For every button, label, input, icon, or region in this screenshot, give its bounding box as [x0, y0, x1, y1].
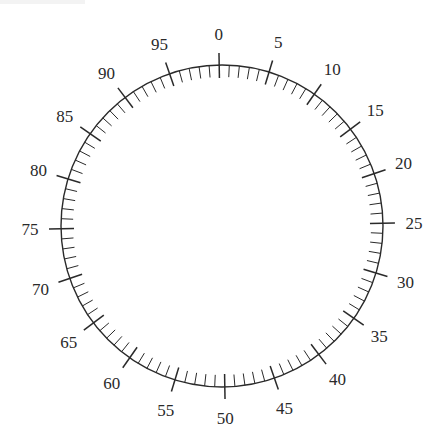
- minor-tick: [205, 374, 206, 386]
- major-tick: [84, 315, 104, 330]
- minor-tick: [329, 114, 338, 122]
- minor-tick: [78, 292, 89, 297]
- minor-tick: [117, 104, 125, 113]
- minor-tick: [283, 79, 288, 90]
- minor-tick: [346, 137, 356, 144]
- minor-tick: [322, 107, 330, 116]
- minor-tick: [107, 330, 116, 338]
- minor-tick: [369, 203, 381, 205]
- major-tick: [123, 347, 137, 367]
- minor-tick: [349, 304, 359, 310]
- scale-label: 65: [60, 333, 77, 352]
- scale-label: 60: [103, 374, 120, 393]
- minor-tick: [367, 261, 379, 264]
- minor-tick: [179, 71, 182, 83]
- minor-tick: [63, 199, 75, 201]
- minor-tick: [291, 84, 297, 95]
- minor-tick: [185, 371, 188, 383]
- minor-tick: [368, 193, 380, 195]
- minor-tick: [369, 251, 381, 253]
- scale-labels: 05101520253035404550556065707580859095: [22, 25, 423, 428]
- minor-tick: [238, 66, 239, 78]
- minor-tick: [85, 142, 95, 148]
- scale-label: 75: [22, 220, 39, 239]
- minor-tick: [371, 213, 383, 214]
- minor-tick: [243, 373, 245, 385]
- minor-tick: [257, 69, 260, 81]
- scale-label: 55: [157, 401, 174, 420]
- minor-tick: [319, 339, 327, 348]
- minor-tick: [332, 326, 341, 334]
- scale-label: 85: [56, 107, 73, 126]
- minor-tick: [252, 372, 254, 384]
- scale-label: 20: [395, 154, 412, 173]
- scale-label: 25: [405, 214, 422, 233]
- minor-tick: [274, 75, 278, 86]
- minor-tick: [279, 364, 284, 375]
- scale-label: 0: [214, 25, 223, 44]
- minor-tick: [88, 308, 98, 315]
- minor-tick: [358, 287, 369, 292]
- minor-tick: [142, 86, 148, 96]
- minor-tick: [195, 373, 197, 385]
- minor-tick: [300, 89, 306, 99]
- minor-tick: [122, 342, 129, 351]
- minor-tick: [315, 100, 322, 109]
- minor-tick: [147, 358, 153, 369]
- minor-tick: [288, 360, 293, 371]
- minor-tick: [366, 183, 378, 186]
- minor-tick: [326, 333, 334, 342]
- minor-tick: [371, 233, 383, 234]
- scale-label: 30: [397, 273, 414, 292]
- minor-tick: [103, 118, 112, 126]
- scale-label: 5: [274, 33, 283, 52]
- scale-label: 35: [371, 327, 388, 346]
- minor-tick: [110, 111, 118, 120]
- minor-tick: [61, 219, 73, 220]
- minor-tick: [209, 66, 210, 78]
- minor-tick: [360, 164, 371, 169]
- major-tick: [343, 311, 363, 325]
- minor-tick: [80, 151, 91, 157]
- minor-tick: [234, 375, 235, 387]
- minor-tick: [304, 350, 311, 360]
- scale-label: 40: [329, 370, 346, 389]
- minor-tick: [73, 283, 84, 288]
- minor-tick: [165, 365, 169, 376]
- minor-tick: [64, 256, 76, 258]
- scale-ring: [61, 65, 383, 387]
- minor-tick: [262, 370, 265, 382]
- minor-tick: [82, 300, 92, 306]
- scale-label: 80: [30, 161, 47, 180]
- minor-tick: [156, 362, 161, 373]
- scale-label: 90: [98, 64, 115, 83]
- major-tick: [118, 88, 133, 108]
- minor-tick: [65, 189, 77, 192]
- scale-label: 45: [276, 399, 293, 418]
- minor-tick: [335, 121, 344, 129]
- minor-tick: [356, 155, 367, 160]
- minor-tick: [114, 336, 122, 345]
- tick-marks: [49, 53, 395, 399]
- minor-tick: [189, 68, 191, 80]
- minor-tick: [62, 209, 74, 210]
- minor-tick: [354, 295, 365, 301]
- minor-tick: [247, 67, 249, 79]
- minor-tick: [361, 278, 372, 282]
- minor-tick: [215, 375, 216, 387]
- minor-tick: [229, 65, 230, 77]
- major-tick: [80, 127, 100, 141]
- scale-label: 50: [217, 409, 234, 428]
- minor-tick: [63, 247, 75, 249]
- minor-tick: [100, 323, 109, 331]
- minor-tick: [151, 82, 156, 93]
- minor-tick: [160, 77, 165, 88]
- minor-tick: [62, 238, 74, 239]
- minor-tick: [71, 169, 82, 173]
- major-tick: [340, 122, 360, 137]
- scale-label: 70: [32, 280, 49, 299]
- scale-label: 95: [151, 35, 168, 54]
- minor-tick: [67, 266, 79, 269]
- minor-tick: [351, 146, 361, 152]
- dial-diagram: 05101520253035404550556065707580859095: [0, 0, 448, 445]
